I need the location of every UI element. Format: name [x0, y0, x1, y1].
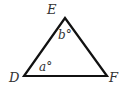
vertex-label-e: E [46, 2, 57, 17]
vertex-label-f: F [108, 70, 119, 85]
triangle-diagram: E D F b° a° [0, 0, 124, 89]
angle-label-b: b° [58, 28, 72, 42]
vertex-label-d: D [8, 70, 20, 85]
angle-label-a: a° [39, 60, 52, 74]
triangle-def [24, 18, 107, 76]
